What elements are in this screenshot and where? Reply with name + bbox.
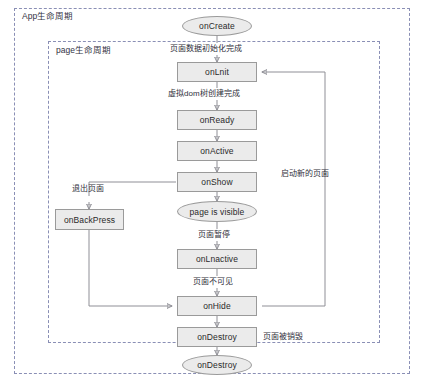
edge-label-page-paused: 页面暂停 xyxy=(198,230,230,240)
edge-label-page-invisible: 页面不可见 xyxy=(193,277,233,287)
node-on-show[interactable]: onShow xyxy=(177,172,257,192)
node-on-destroy-oval[interactable]: onDestroy xyxy=(182,355,252,375)
node-on-ready[interactable]: onReady xyxy=(177,110,257,130)
edge-label-data-init-done: 页面数据初始化完成 xyxy=(170,44,242,54)
edge-label-exit-page: 退出页面 xyxy=(72,184,104,194)
node-on-hide[interactable]: onHide xyxy=(177,296,257,316)
node-on-inactive[interactable]: onLnactive xyxy=(177,249,257,269)
group-app-lifecycle-title: App生命周期 xyxy=(22,11,73,21)
node-page-is-visible[interactable]: page is visible xyxy=(177,201,257,222)
node-on-back-press[interactable]: onBackPress xyxy=(55,209,124,230)
node-on-init[interactable]: onLnit xyxy=(177,62,257,82)
edge-label-vdom-created: 虚拟dom树创建完成 xyxy=(168,89,240,99)
node-on-active[interactable]: onActive xyxy=(177,141,257,161)
node-on-create[interactable]: onCreate xyxy=(182,16,252,36)
node-on-destroy-box[interactable]: onDestroy xyxy=(177,327,257,347)
group-page-lifecycle-title: page生命周期 xyxy=(56,45,111,55)
edge-label-launch-new-page: 启动新的页面 xyxy=(281,169,329,179)
edge-label-page-destroyed: 页面被销毁 xyxy=(263,332,303,342)
flowchart-canvas: App生命周期 page生命周期 xyxy=(0,0,424,382)
